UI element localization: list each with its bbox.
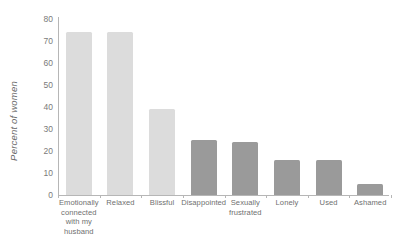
y-axis-tick-label: 60 bbox=[44, 58, 53, 68]
bar[interactable] bbox=[357, 184, 383, 195]
x-axis-tick-mark bbox=[349, 195, 350, 198]
bar[interactable] bbox=[232, 142, 258, 195]
x-axis-tick-mark bbox=[141, 195, 142, 198]
x-axis-tick-mark bbox=[266, 195, 267, 198]
bar[interactable] bbox=[149, 109, 175, 195]
bar-group[interactable] bbox=[232, 0, 258, 195]
y-axis-ticks: 01020304050607080 bbox=[0, 0, 58, 242]
bar[interactable] bbox=[191, 140, 217, 195]
y-axis-tick-label: 40 bbox=[44, 102, 53, 112]
y-axis-tick-label: 30 bbox=[44, 124, 53, 134]
bar-group[interactable] bbox=[66, 0, 92, 195]
x-axis-tick-mark bbox=[183, 195, 184, 198]
y-axis-tick-label: 20 bbox=[44, 146, 53, 156]
x-axis-tick-mark bbox=[225, 195, 226, 198]
bar[interactable] bbox=[316, 160, 342, 195]
x-axis-labels: Emotionallyconnectedwith myhusbandRelaxe… bbox=[58, 198, 391, 242]
bar-group[interactable] bbox=[191, 0, 217, 195]
bar-group[interactable] bbox=[274, 0, 300, 195]
bar[interactable] bbox=[107, 32, 133, 195]
bar[interactable] bbox=[66, 32, 92, 195]
y-axis-tick-label: 80 bbox=[44, 14, 53, 24]
y-axis-tick-label: 50 bbox=[44, 80, 53, 90]
bar-group[interactable] bbox=[107, 0, 133, 195]
y-axis-tick-label: 0 bbox=[48, 190, 53, 200]
bar-group[interactable] bbox=[357, 0, 383, 195]
y-axis-tick-label: 70 bbox=[44, 36, 53, 46]
x-axis-tick-mark bbox=[100, 195, 101, 198]
x-axis-tick-mark bbox=[308, 195, 309, 198]
y-axis-tick-label: 10 bbox=[44, 168, 53, 178]
x-axis-line bbox=[58, 195, 389, 196]
bar[interactable] bbox=[274, 160, 300, 195]
x-axis-tick-mark bbox=[391, 195, 392, 198]
bar-group[interactable] bbox=[316, 0, 342, 195]
bar-group[interactable] bbox=[149, 0, 175, 195]
x-axis-tick-mark bbox=[58, 195, 59, 198]
bars-layer bbox=[58, 0, 391, 195]
x-axis-category-label: Ashamed bbox=[345, 198, 395, 208]
